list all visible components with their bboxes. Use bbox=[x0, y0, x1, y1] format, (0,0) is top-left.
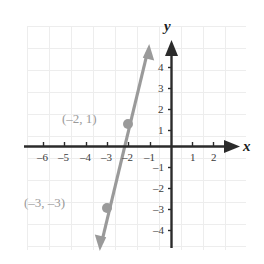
x-tick-label--4: –4 bbox=[80, 152, 91, 163]
y-tick-label--3: –3 bbox=[153, 204, 164, 215]
tick-marks bbox=[44, 68, 214, 231]
y-tick-label--4: –4 bbox=[153, 225, 164, 236]
x-tick-label-1: 1 bbox=[190, 152, 196, 163]
x-tick-label--3: –3 bbox=[101, 152, 112, 163]
point-marker-upper bbox=[123, 119, 133, 129]
point-label-upper: (–2, 1) bbox=[62, 112, 97, 125]
y-tick-label--1: –1 bbox=[153, 162, 164, 173]
grid-lines bbox=[28, 26, 247, 250]
x-tick-label--6: –6 bbox=[37, 152, 48, 163]
point-marker-lower bbox=[102, 203, 112, 213]
x-tick-label-2: 2 bbox=[211, 152, 217, 163]
y-tick-label-1: 1 bbox=[158, 125, 164, 136]
x-axis-label: x bbox=[243, 139, 251, 154]
x-axis-arrow bbox=[224, 140, 240, 153]
x-tick-label--5: –5 bbox=[58, 152, 69, 163]
y-axis-label: y bbox=[164, 19, 171, 34]
line-arrow-up bbox=[143, 44, 154, 61]
y-tick-label-4: 4 bbox=[158, 62, 164, 73]
y-tick-label-2: 2 bbox=[158, 104, 164, 115]
y-tick-label--2: –2 bbox=[153, 183, 164, 194]
y-tick-label-3: 3 bbox=[158, 83, 164, 94]
point-label-lower: (–3, –3) bbox=[24, 196, 65, 209]
axes bbox=[24, 40, 240, 248]
coordinate-plane-figure: –6 –5 –4 –3 –2 –1 1 2 4 3 2 1 –1 –2 –3 –… bbox=[0, 0, 264, 264]
graph-canvas bbox=[0, 0, 264, 264]
line-arrow-down bbox=[95, 235, 106, 252]
x-tick-label--2: –2 bbox=[122, 152, 133, 163]
